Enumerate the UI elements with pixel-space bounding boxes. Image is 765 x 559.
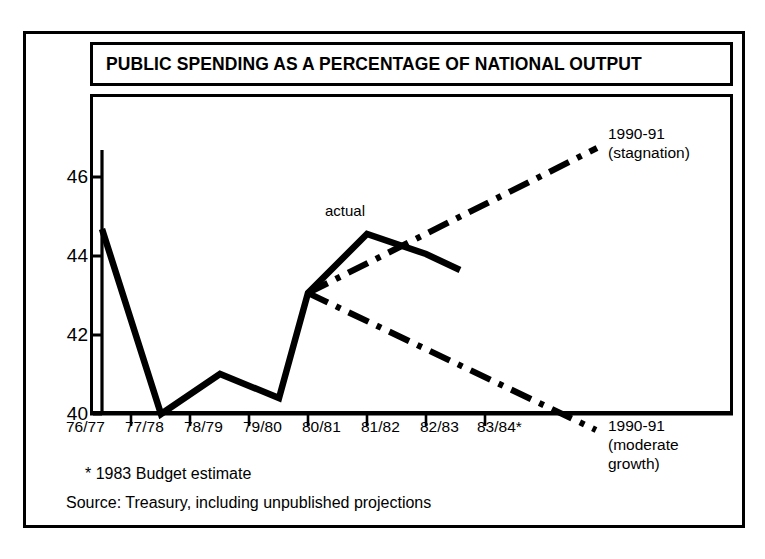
page-title: PUBLIC SPENDING AS A PERCENTAGE OF NATIO… (93, 54, 642, 75)
y-tick-label-42: 42 (48, 324, 88, 346)
x-tick-label-1: 77/78 (125, 418, 164, 436)
y-tick-label-44: 44 (48, 245, 88, 267)
x-tick-label-6: 82/83 (420, 418, 459, 436)
annotation-stagnation-line1: 1990-91 (608, 125, 690, 144)
x-tick-label-4: 80/81 (302, 418, 341, 436)
figure-root: PUBLIC SPENDING AS A PERCENTAGE OF NATIO… (0, 0, 765, 559)
annotation-moderate-growth: 1990-91 (moderate growth) (608, 417, 679, 474)
footnote-source: Source: Treasury, including unpublished … (66, 494, 431, 512)
title-box: PUBLIC SPENDING AS A PERCENTAGE OF NATIO… (90, 42, 733, 86)
x-tick-label-7: 83/84* (477, 418, 522, 436)
footnote-estimate: * 1983 Budget estimate (85, 465, 251, 483)
x-tick-label-0: 76/77 (66, 418, 105, 436)
annotation-moderate-line1: 1990-91 (608, 417, 679, 436)
annotation-actual: actual (325, 202, 365, 219)
annotation-stagnation-line2: (stagnation) (608, 144, 690, 163)
y-tick-label-46: 46 (48, 166, 88, 188)
x-tick-label-5: 81/82 (361, 418, 400, 436)
annotation-moderate-line2: (moderate (608, 436, 679, 455)
annotation-stagnation: 1990-91 (stagnation) (608, 125, 690, 163)
x-tick-label-2: 78/79 (184, 418, 223, 436)
annotation-moderate-line3: growth) (608, 455, 679, 474)
x-tick-label-3: 79/80 (243, 418, 282, 436)
